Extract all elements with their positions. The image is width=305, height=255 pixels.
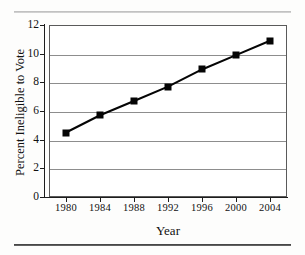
data-point-marker bbox=[131, 97, 138, 104]
y-axis-tick-label: 4 bbox=[33, 134, 39, 146]
y-axis-tick-label: 12 bbox=[28, 19, 40, 31]
data-point-marker bbox=[97, 112, 104, 119]
y-axis-tick bbox=[40, 168, 45, 169]
y-axis-tick-label: 2 bbox=[33, 162, 39, 174]
x-axis-tick-label: 1996 bbox=[191, 202, 213, 213]
data-point-marker bbox=[267, 37, 274, 44]
y-axis-tick-label: 8 bbox=[33, 76, 39, 88]
y-axis-tick-label: 10 bbox=[28, 48, 40, 60]
data-point-marker bbox=[199, 66, 206, 73]
x-axis-tick-label: 1984 bbox=[89, 202, 111, 213]
data-point-marker bbox=[165, 83, 172, 90]
data-point-markers bbox=[49, 25, 287, 197]
data-point-marker bbox=[233, 52, 240, 59]
y-axis-tick bbox=[40, 82, 45, 83]
data-point-marker bbox=[63, 129, 70, 136]
x-axis-tick-label: 1988 bbox=[123, 202, 145, 213]
y-axis-title: Percent Ineligible to Vote bbox=[14, 33, 27, 193]
y-axis-tick bbox=[40, 140, 45, 141]
bottom-divider-rule bbox=[14, 244, 291, 246]
y-axis-tick-label: 0 bbox=[33, 191, 39, 203]
x-axis-title: Year bbox=[49, 224, 287, 238]
y-axis bbox=[44, 24, 45, 198]
x-axis-tick-label: 2000 bbox=[225, 202, 247, 213]
y-axis-tick bbox=[40, 25, 45, 26]
x-axis bbox=[44, 197, 288, 198]
x-axis-tick-label: 2004 bbox=[259, 202, 281, 213]
x-axis-tick-label: 1992 bbox=[157, 202, 179, 213]
chart-page: 024681012 1980198419881992199620002004 P… bbox=[0, 0, 305, 255]
line-chart-figure: 024681012 1980198419881992199620002004 P… bbox=[0, 0, 305, 255]
y-axis-tick-label: 6 bbox=[33, 105, 39, 117]
y-axis-tick bbox=[40, 54, 45, 55]
y-axis-tick bbox=[40, 111, 45, 112]
x-axis-tick-label: 1980 bbox=[55, 202, 77, 213]
